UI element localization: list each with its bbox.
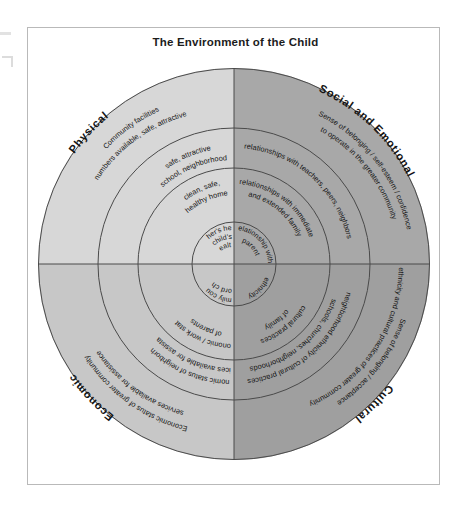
page-title: The Environment of the Child — [0, 36, 471, 48]
scan-artifact-top — [0, 32, 11, 35]
environment-of-the-child-diagram: Physical Community facilities numbers av… — [38, 68, 430, 460]
scan-artifact-corner — [2, 56, 13, 67]
